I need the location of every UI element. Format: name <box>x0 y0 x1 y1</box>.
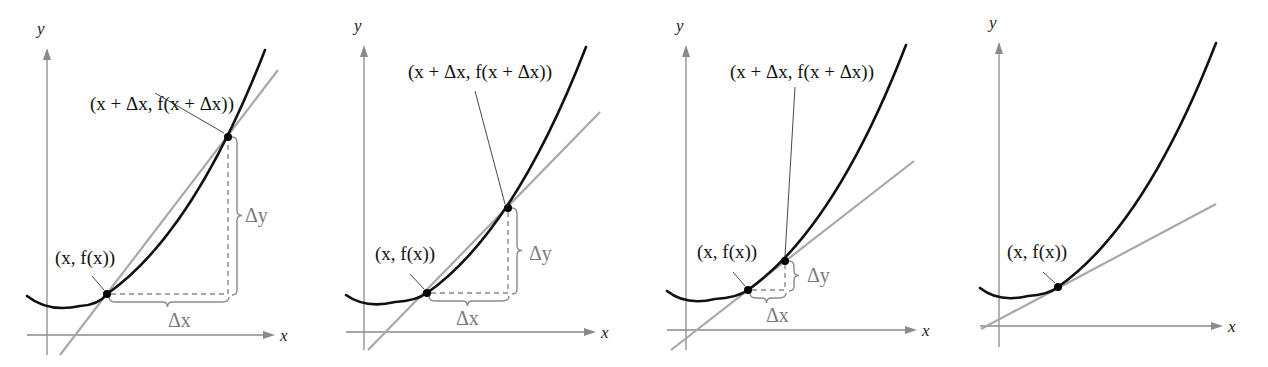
panel-4: yx(x, f(x)) <box>980 13 1236 347</box>
x-axis-label: x <box>1227 317 1236 336</box>
x-axis-arrow-icon <box>1211 322 1223 330</box>
point-end-dot <box>224 133 232 141</box>
point-start-leader <box>410 274 424 289</box>
delta-y-label: Δy <box>245 204 268 227</box>
function-curve <box>346 47 586 304</box>
panel-3: yxΔxΔy(x, f(x))(x + Δx, f(x + Δx)) <box>667 16 930 350</box>
secant-line <box>368 112 600 350</box>
delta-guide-dashed <box>111 141 228 294</box>
y-axis-arrow-icon <box>43 48 51 60</box>
delta-guide-dashed <box>752 265 785 290</box>
delta-y-label: Δy <box>807 264 830 287</box>
x-axis-arrow-icon <box>905 326 917 334</box>
y-axis-arrow-icon <box>360 45 368 57</box>
point-end-leader <box>475 91 505 204</box>
point-start-label: (x, f(x)) <box>697 241 757 263</box>
x-axis-label: x <box>279 326 288 345</box>
point-start-leader <box>92 276 104 290</box>
function-curve <box>27 50 265 308</box>
delta-x-label: Δx <box>168 309 191 331</box>
point-end-label: (x + Δx, f(x + Δx)) <box>90 93 234 115</box>
delta-x-brace <box>429 296 509 306</box>
point-end-leader <box>785 87 795 256</box>
secant-to-tangent-figure: yxΔxΔy(x, f(x))(x + Δx, f(x + Δx))yxΔxΔy… <box>0 0 1268 367</box>
point-start-leader <box>1043 272 1055 283</box>
delta-y-brace <box>232 137 242 295</box>
y-axis-label: y <box>352 16 362 35</box>
delta-y-brace <box>789 261 799 291</box>
point-start-leader <box>733 272 745 286</box>
panel-1: yxΔxΔy(x, f(x))(x + Δx, f(x + Δx)) <box>27 19 288 355</box>
point-end-dot <box>504 204 512 212</box>
delta-x-label: Δx <box>766 304 789 326</box>
tangent-line <box>981 204 1216 329</box>
point-start-dot <box>1054 283 1062 291</box>
point-start-dot <box>744 286 752 294</box>
delta-x-brace <box>750 293 786 303</box>
y-axis-arrow-icon <box>995 42 1003 54</box>
x-axis-arrow-icon <box>263 331 275 339</box>
y-axis-arrow-icon <box>682 45 690 57</box>
point-start-label: (x, f(x)) <box>1007 241 1067 263</box>
delta-y-label: Δy <box>529 242 552 265</box>
point-start-dot <box>423 289 431 297</box>
panel-2: yxΔxΔy(x, f(x))(x + Δx, f(x + Δx)) <box>346 16 609 350</box>
delta-x-brace <box>109 297 229 307</box>
point-start-label: (x, f(x)) <box>375 243 435 265</box>
delta-y-brace <box>512 208 522 294</box>
figure-canvas: yxΔxΔy(x, f(x))(x + Δx, f(x + Δx))yxΔxΔy… <box>0 0 1268 367</box>
delta-x-label: Δx <box>456 307 479 329</box>
y-axis-label: y <box>35 19 45 38</box>
point-end-dot <box>781 257 789 265</box>
y-axis-label: y <box>987 13 997 32</box>
y-axis-label: y <box>674 16 684 35</box>
point-start-dot <box>103 290 111 298</box>
point-end-label: (x + Δx, f(x + Δx)) <box>408 61 552 83</box>
point-end-label: (x + Δx, f(x + Δx)) <box>730 61 874 83</box>
x-axis-label: x <box>921 321 930 340</box>
point-start-label: (x, f(x)) <box>55 247 115 269</box>
x-axis-arrow-icon <box>584 328 596 336</box>
x-axis-label: x <box>600 323 609 342</box>
